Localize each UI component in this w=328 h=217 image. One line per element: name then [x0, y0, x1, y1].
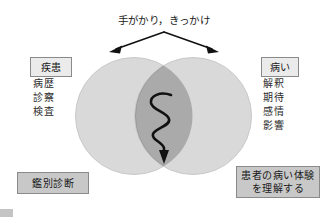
illness-item-list: 解釈 期待 感情 影響 — [263, 77, 284, 133]
venn-circle-right-icon — [134, 57, 252, 175]
disease-item-1: 診察 — [33, 91, 54, 105]
disease-item-2: 検査 — [33, 105, 54, 119]
top-caption: 手がかり，きっかけ — [0, 12, 328, 27]
arrow-down-left-icon — [109, 32, 164, 54]
disease-item-list: 病歴 診察 検査 — [33, 77, 54, 119]
illness-item-3: 影響 — [263, 119, 284, 133]
illness-item-0: 解釈 — [263, 77, 284, 91]
illness-item-1: 期待 — [263, 91, 284, 105]
outcome-line-2: を理解する — [252, 182, 305, 195]
disease-item-0: 病歴 — [33, 77, 54, 91]
illness-item-2: 感情 — [263, 105, 284, 119]
heading-disease: 疾患 — [30, 57, 72, 77]
outcome-differential-diagnosis: 鑑別診断 — [17, 172, 89, 194]
arrow-down-right-icon — [164, 32, 219, 54]
venn-diagram-disease-vs-illness: 手がかり，きっかけ 疾患 病歴 診察 検査 — [0, 0, 328, 217]
outcome-understand-illness-experience: 患者の病い体験 を理解する — [236, 166, 320, 198]
scan-edge-artifact — [0, 209, 13, 217]
outcome-line-1: 患者の病い体験 — [241, 169, 315, 182]
heading-illness: 病い — [261, 57, 299, 77]
